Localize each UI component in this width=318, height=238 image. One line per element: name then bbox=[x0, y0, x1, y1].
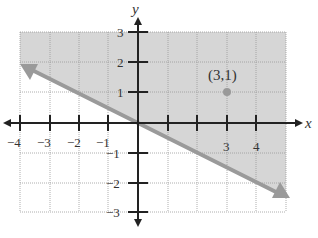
x-tick-label: 3 bbox=[223, 139, 230, 154]
y-tick-label: −3 bbox=[106, 205, 120, 220]
x-tick-label: −2 bbox=[67, 135, 81, 150]
x-tick-label: −3 bbox=[37, 135, 51, 150]
y-tick-label: −1 bbox=[106, 146, 120, 161]
x-axis-arrow-right-icon bbox=[295, 119, 303, 127]
coordinate-graph: y x −4 −3 −2 −1 3 4 3 2 1 −1 −2 −3 (3,1) bbox=[0, 0, 318, 238]
y-tick-label: 2 bbox=[117, 55, 124, 70]
x-axis-label: x bbox=[304, 115, 312, 131]
y-tick-label: 1 bbox=[117, 85, 124, 100]
test-point bbox=[223, 88, 231, 96]
shaded-solution-region bbox=[20, 32, 286, 197]
x-tick-label: −4 bbox=[7, 135, 21, 150]
x-axis-arrow-left-icon bbox=[3, 119, 11, 127]
y-axis-arrow-down-icon bbox=[134, 219, 142, 227]
y-axis-arrow-up-icon bbox=[134, 17, 142, 25]
y-tick-label: −2 bbox=[106, 176, 120, 191]
y-axis-label: y bbox=[130, 1, 139, 17]
test-point-label: (3,1) bbox=[208, 67, 237, 84]
y-tick-label: 3 bbox=[117, 25, 124, 40]
x-tick-label: 4 bbox=[253, 139, 260, 154]
